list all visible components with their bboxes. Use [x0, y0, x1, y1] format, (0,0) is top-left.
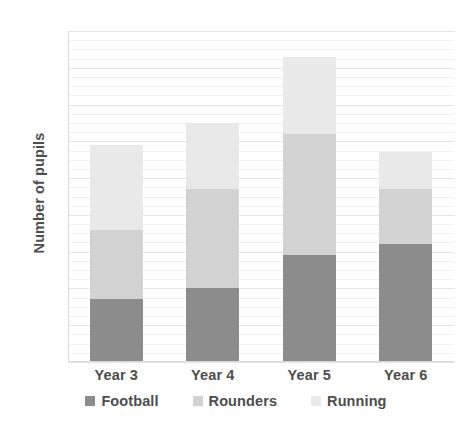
bar-segment-running[interactable] — [283, 57, 336, 134]
bar-stack[interactable] — [186, 31, 239, 362]
bar-stack[interactable] — [283, 31, 336, 362]
legend-swatch-icon — [193, 396, 203, 406]
legend-swatch-icon — [311, 396, 321, 406]
chart-legend: FootballRoundersRunning — [0, 393, 472, 409]
bar-segment-rounders[interactable] — [90, 230, 143, 300]
bar-group — [261, 31, 358, 362]
bar-segment-rounders[interactable] — [283, 134, 336, 255]
legend-label: Rounders — [209, 393, 277, 409]
gridline-major — [68, 362, 454, 363]
bar-stack[interactable] — [90, 31, 143, 362]
legend-item-rounders[interactable]: Rounders — [193, 393, 277, 409]
y-axis-title: Number of pupils — [31, 93, 47, 293]
legend-label: Football — [101, 393, 158, 409]
bar-segment-rounders[interactable] — [186, 189, 239, 288]
bar-segment-running[interactable] — [90, 145, 143, 230]
bar-segment-running[interactable] — [379, 152, 432, 189]
bar-segment-football[interactable] — [90, 299, 143, 362]
x-tick-label: Year 4 — [165, 367, 262, 383]
bar-segment-running[interactable] — [186, 123, 239, 189]
stacked-bar-chart: Number of pupils 0102030405060708090 Yea… — [0, 0, 472, 432]
plot-area: 0102030405060708090 — [68, 31, 454, 362]
legend-label: Running — [327, 393, 387, 409]
x-tick-label: Year 3 — [68, 367, 165, 383]
bar-segment-football[interactable] — [379, 244, 432, 362]
legend-item-running[interactable]: Running — [311, 393, 387, 409]
y-axis-line — [68, 31, 69, 362]
x-axis-line — [68, 361, 454, 362]
x-tick-label: Year 6 — [358, 367, 455, 383]
bar-stack[interactable] — [379, 31, 432, 362]
bar-segment-football[interactable] — [283, 255, 336, 362]
bar-group — [68, 31, 165, 362]
bar-segment-rounders[interactable] — [379, 189, 432, 244]
bar-group — [165, 31, 262, 362]
legend-swatch-icon — [85, 396, 95, 406]
bar-group — [358, 31, 455, 362]
x-tick-labels: Year 3Year 4Year 5Year 6 — [68, 367, 454, 383]
bars-layer — [68, 31, 454, 362]
bar-segment-football[interactable] — [186, 288, 239, 362]
x-tick-label: Year 5 — [261, 367, 358, 383]
legend-item-football[interactable]: Football — [85, 393, 158, 409]
